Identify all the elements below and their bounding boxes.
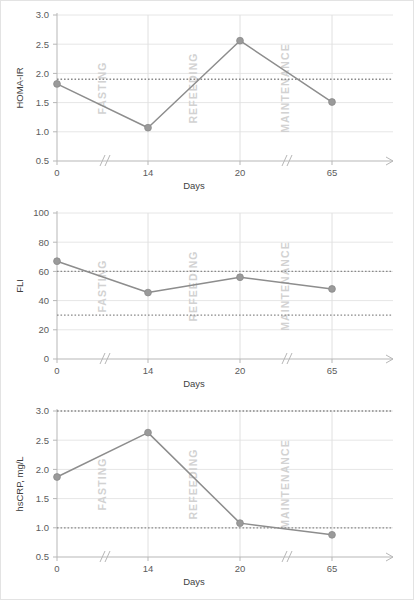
data-point-marker — [54, 81, 61, 88]
y-axis-tick-label: 3.0 — [36, 9, 49, 20]
data-point-marker — [145, 289, 152, 296]
chart-svg-fli: 020406080100FLIFASTINGREFEEDINGMAINTENAN… — [1, 199, 414, 397]
x-axis-tick-label: 20 — [235, 563, 246, 574]
phase-label-maintenance: MAINTENANCE — [279, 439, 291, 529]
y-axis-tick-label: 0.5 — [36, 551, 49, 562]
chart-svg-hscrp: 0.51.01.52.02.53.0hsCRP, mg/LFASTINGREFE… — [1, 397, 414, 595]
y-axis-tick-label: 0 — [44, 353, 49, 364]
phase-label-refeeding: REFEEDING — [187, 52, 199, 123]
x-axis-tick-label: 14 — [143, 365, 154, 376]
y-axis-tick-label: 3.0 — [36, 405, 49, 416]
x-axis-title: Days — [183, 576, 205, 587]
y-axis-tick-label: 80 — [38, 237, 49, 248]
phase-label-refeeding: REFEEDING — [187, 448, 199, 519]
y-axis-tick-label: 2.0 — [36, 464, 49, 475]
y-axis-tick-label: 2.5 — [36, 435, 49, 446]
y-axis-title: HOMA-IR — [14, 67, 25, 108]
y-axis-tick-label: 1.5 — [36, 97, 49, 108]
chart-svg-homa-ir: 0.51.01.52.02.53.0HOMA-IRFASTINGREFEEDIN… — [1, 1, 414, 199]
x-axis-tick-label: 65 — [327, 563, 338, 574]
y-axis-tick-label: 100 — [33, 207, 49, 218]
y-axis-tick-label: 0.5 — [36, 155, 49, 166]
x-axis-title: Days — [183, 180, 205, 191]
y-axis-title: FLI — [14, 279, 25, 293]
x-axis-tick-label: 65 — [327, 167, 338, 178]
y-axis-tick-label: 60 — [38, 266, 49, 277]
data-point-marker — [237, 274, 244, 281]
y-axis-tick-label: 1.0 — [36, 126, 49, 137]
x-axis-tick-label: 0 — [54, 563, 59, 574]
x-axis-tick-label: 65 — [327, 365, 338, 376]
data-point-marker — [329, 531, 336, 538]
chart-panel-hscrp: 0.51.01.52.02.53.0hsCRP, mg/LFASTINGREFE… — [1, 397, 414, 595]
figure-container: 0.51.01.52.02.53.0HOMA-IRFASTINGREFEEDIN… — [0, 0, 414, 600]
x-axis-tick-label: 20 — [235, 365, 246, 376]
x-axis-title: Days — [183, 378, 205, 389]
data-point-marker — [237, 37, 244, 44]
data-point-marker — [145, 429, 152, 436]
phase-label-fasting: FASTING — [96, 259, 108, 312]
phase-label-maintenance: MAINTENANCE — [279, 43, 291, 133]
data-point-marker — [54, 474, 61, 481]
y-axis-tick-label: 1.0 — [36, 522, 49, 533]
y-axis-tick-label: 2.0 — [36, 68, 49, 79]
phase-label-maintenance: MAINTENANCE — [279, 241, 291, 331]
y-axis-title: hsCRP, mg/L — [14, 456, 25, 511]
data-point-marker — [329, 99, 336, 106]
y-axis-tick-label: 1.5 — [36, 493, 49, 504]
data-point-marker — [329, 286, 336, 293]
data-point-marker — [237, 520, 244, 527]
x-axis-tick-label: 14 — [143, 167, 154, 178]
phase-label-fasting: FASTING — [96, 61, 108, 114]
y-axis-tick-label: 2.5 — [36, 39, 49, 50]
y-axis-tick-label: 20 — [38, 324, 49, 335]
x-axis-tick-label: 0 — [54, 167, 59, 178]
chart-panel-homa-ir: 0.51.01.52.02.53.0HOMA-IRFASTINGREFEEDIN… — [1, 1, 414, 199]
chart-panel-fli: 020406080100FLIFASTINGREFEEDINGMAINTENAN… — [1, 199, 414, 397]
x-axis-tick-label: 14 — [143, 563, 154, 574]
y-axis-tick-label: 40 — [38, 295, 49, 306]
data-point-marker — [145, 124, 152, 131]
phase-label-fasting: FASTING — [96, 457, 108, 510]
x-axis-tick-label: 0 — [54, 365, 59, 376]
x-axis-tick-label: 20 — [235, 167, 246, 178]
data-point-marker — [54, 258, 61, 265]
